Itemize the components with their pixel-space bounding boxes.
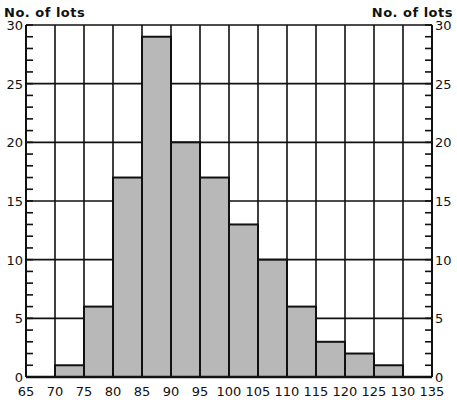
x-tick-label: 80 (105, 384, 122, 399)
x-tick-label: 85 (134, 384, 151, 399)
y-tick-label-left: 5 (15, 311, 23, 326)
x-tick-label: 135 (420, 384, 445, 399)
histogram-bar (84, 307, 113, 377)
histogram-bar (55, 365, 84, 377)
y-tick-label-left: 25 (6, 77, 23, 92)
histogram-bar (113, 178, 142, 377)
y-tick-label-left: 30 (6, 18, 23, 33)
x-tick-label: 75 (76, 384, 93, 399)
x-tick-label: 100 (217, 384, 242, 399)
y-tick-label-right: 5 (435, 311, 443, 326)
x-tick-label: 120 (333, 384, 358, 399)
histogram-bar (287, 307, 316, 377)
x-axis-tick-labels: 65707580859095100105110115120125130135 (18, 384, 445, 399)
y-axis-right-title: No. of lots (372, 5, 453, 20)
y-tick-label-right: 15 (435, 194, 452, 209)
y-axis-right-tick-labels: 051015202530 (435, 18, 452, 385)
x-tick-label: 115 (304, 384, 329, 399)
histogram-bar (200, 178, 229, 377)
x-tick-label: 65 (18, 384, 35, 399)
y-tick-label-right: 10 (435, 253, 452, 268)
x-tick-label: 105 (246, 384, 271, 399)
y-tick-label-right: 20 (435, 135, 452, 150)
x-tick-label: 125 (362, 384, 387, 399)
histogram-bar (171, 142, 200, 377)
histogram-bar (316, 342, 345, 377)
x-tick-label: 95 (192, 384, 209, 399)
y-axis-left-title: No. of lots (4, 5, 85, 20)
y-axis-left-tick-labels: 051015202530 (6, 18, 23, 385)
y-tick-label-left: 10 (6, 253, 23, 268)
x-tick-label: 70 (47, 384, 64, 399)
y-tick-label-left: 0 (15, 370, 23, 385)
y-tick-label-left: 15 (6, 194, 23, 209)
x-tick-label: 130 (391, 384, 416, 399)
histogram-chart: 65707580859095100105110115120125130135 0… (0, 0, 457, 406)
y-tick-label-left: 20 (6, 135, 23, 150)
histogram-bar (374, 365, 403, 377)
histogram-bar (229, 224, 258, 377)
histogram-bar (258, 260, 287, 377)
y-tick-label-right: 25 (435, 77, 452, 92)
histogram-bar (142, 37, 171, 377)
y-tick-label-right: 0 (435, 370, 443, 385)
x-tick-label: 90 (163, 384, 180, 399)
y-tick-label-right: 30 (435, 18, 452, 33)
histogram-bar (345, 354, 374, 377)
x-tick-label: 110 (275, 384, 300, 399)
